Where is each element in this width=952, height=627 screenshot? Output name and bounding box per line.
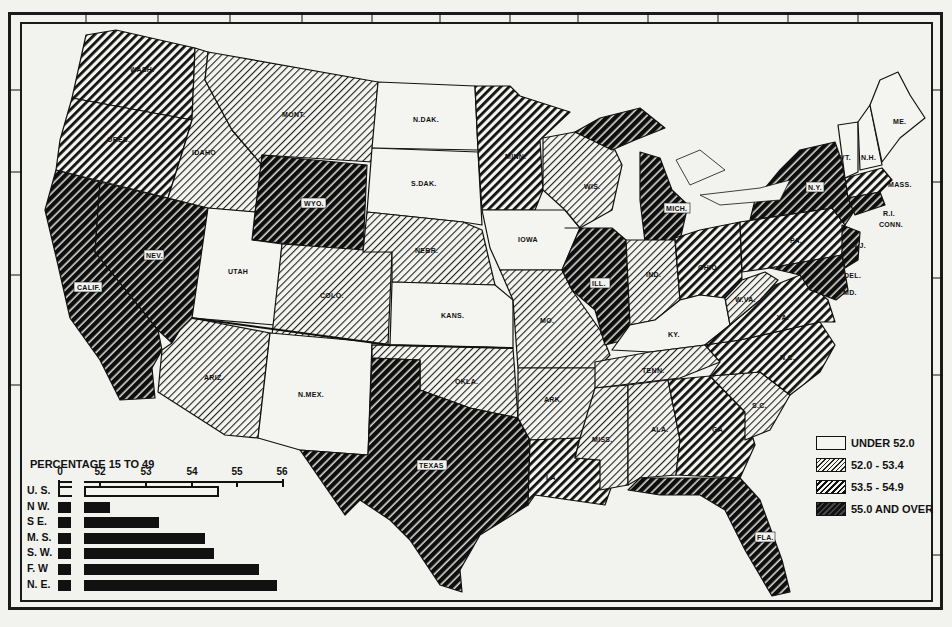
bar-se [84,517,159,528]
label-ill: ILL. [592,280,606,287]
legend-label: 53.5 - 54.9 [851,481,904,493]
bar-stub-ne [58,580,71,591]
label-ny: N.Y. [808,184,822,191]
row-label-ms: M. S. [27,531,57,543]
label-ala: ALA. [651,426,669,433]
label-ark: ARK. [544,396,562,403]
bar-stub-us [58,486,72,497]
label-va: VA. [777,314,789,321]
state-ohio [675,222,742,300]
legend-label: 55.0 AND OVER [851,503,933,515]
label-sc: S.C. [752,402,767,409]
label-fla: FLA. [757,534,774,541]
tick-label-52: 52 [94,466,105,477]
label-pa: PA. [790,237,802,244]
bar-stub-nw [58,502,71,513]
label-md: MD. [843,289,857,296]
label-la: LA. [546,474,558,481]
legend-item-53-54: 53.5 - 54.9 [816,476,933,498]
label-ohio: OHIO [698,264,717,271]
label-sdak: S.DAK. [411,180,437,187]
bar-fw [84,564,259,575]
label-nev: NEV. [146,252,163,259]
label-conn: CONN. [879,221,903,228]
label-wva: W.VA. [735,296,756,303]
label-ind: IND. [646,271,661,278]
tick-label-55: 55 [231,466,242,477]
axis-tick [282,479,284,487]
legend-swatch-medium-hatch [816,480,846,494]
label-wis: WIS. [584,183,600,190]
label-wyo: WYO. [304,200,324,207]
label-idaho: IDAHO [192,149,216,156]
tick-label-53: 53 [140,466,151,477]
label-tenn: TENN. [642,367,665,374]
axis-tick [236,481,238,487]
label-minn: MINN. [505,153,526,160]
label-oreg: ORES. [107,136,130,143]
label-del: DEL. [844,272,861,279]
row-label-se: S E. [27,515,57,527]
row-label-fw: F. W [27,562,57,574]
legend-swatch-dark-hatch [816,502,846,516]
label-wash: WASH. [130,66,154,73]
label-okla: OKLA. [455,378,478,385]
bar-nw [84,502,110,513]
map-legend: UNDER 52.0 52.0 - 53.4 53.5 - 54.9 55.0 … [816,432,933,520]
label-mo: MO. [540,317,554,324]
tick-label-56: 56 [276,466,287,477]
label-ga: GA. [712,426,725,433]
label-nh: N.H. [861,154,876,161]
label-nebr: NEBR. [415,247,438,254]
label-me: ME. [893,118,906,125]
inset-title: PERCENTAGE 15 TO 49 [30,458,154,470]
row-label-nw: N W. [27,500,57,512]
bar-us [84,486,219,497]
label-calif: CALIF. [77,284,101,291]
bar-ne [84,580,277,591]
label-kans: KANS. [441,312,464,319]
axis-stub [58,481,72,483]
row-label-ne: N. E. [27,578,57,590]
legend-label: UNDER 52.0 [851,437,915,449]
bar-stub-fw [58,564,71,575]
label-nmex: N.MEX. [298,391,324,398]
legend-item-52-53: 52.0 - 53.4 [816,454,933,476]
label-mont: MONT. [282,111,305,118]
row-label-us: U. S. [27,484,57,496]
label-mich: MICH. [666,205,687,212]
legend-item-55-over: 55.0 AND OVER [816,498,933,520]
bar-stub-sw [58,548,71,559]
legend-label: 52.0 - 53.4 [851,459,904,471]
label-vt: VT. [840,154,851,161]
lake-outlines [676,150,725,185]
label-texas: TEXAS [419,462,444,469]
label-ariz: ARIZ. [204,374,224,381]
label-ri: R.I. [883,210,895,217]
bar-stub-se [58,517,71,528]
label-nc: N.C. [780,354,795,361]
legend-item-under-52: UNDER 52.0 [816,432,933,454]
tick-label-0: 0 [57,466,63,477]
axis-main [84,481,284,483]
legend-swatch-light-hatch [816,458,846,472]
label-colo: COLO. [320,292,344,299]
tick-label-54: 54 [186,466,197,477]
label-nj: N.J. [852,242,866,249]
bar-sw [84,548,214,559]
row-label-sw: S. W. [27,546,57,558]
label-mass: MASS. [888,181,912,188]
label-iowa: IOWA [518,236,538,243]
label-utah: UTAH [228,268,248,275]
label-ky: KY. [668,331,680,338]
label-ndak: N.DAK. [413,116,439,123]
label-miss: MISS. [592,436,613,443]
bar-stub-ms [58,533,71,544]
legend-swatch-blank [816,436,846,450]
bar-ms [84,533,205,544]
